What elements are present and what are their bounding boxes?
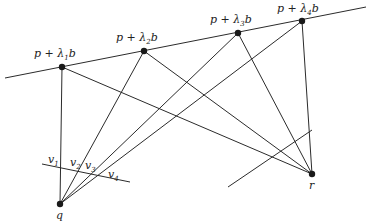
projection-rays [60,21,312,204]
point-r [309,171,315,177]
label-lambda-2: p + λ2b [116,31,158,46]
label-q: q [56,209,63,222]
ray-to-q [60,67,62,204]
point-lambda-4 [299,18,305,24]
label-r: r [309,179,315,192]
ray-to-r [302,21,312,174]
point-lambda-3 [235,30,241,36]
ray-to-q [60,21,302,204]
label-v3: v3 [85,159,96,174]
ray-to-q [60,33,238,204]
label-lambda-4: p + λ4b [277,2,319,17]
labels: p + λ1bp + λ2bp + λ3bp + λ4bqrv1v2v3v4 [34,2,319,222]
label-lambda-1: p + λ1b [34,47,76,62]
point-lambda-1 [59,64,65,70]
r-plane-line [228,130,312,187]
label-lambda-3: p + λ3b [210,13,252,28]
point-q [57,201,63,207]
ray-to-r [238,33,312,174]
label-v2: v2 [70,156,81,171]
ray-to-q [60,51,144,204]
points [57,18,315,207]
diagram-canvas: p + λ1bp + λ2bp + λ3bp + λ4bqrv1v2v3v4 [0,0,370,222]
point-lambda-2 [141,48,147,54]
label-v1: v1 [48,153,59,168]
label-v4: v4 [108,168,119,183]
